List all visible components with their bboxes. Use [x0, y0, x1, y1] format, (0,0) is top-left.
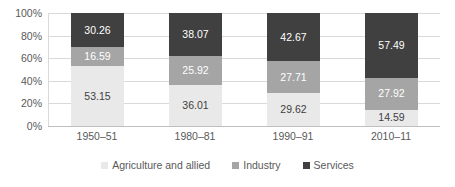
bar-segment[interactable]: 38.07: [169, 13, 222, 56]
bar-group[interactable]: 42.6727.7129.62: [267, 13, 320, 126]
gridline: [48, 126, 440, 127]
plot-area: 30.2616.5953.1538.0725.9236.0142.6727.71…: [48, 13, 440, 126]
y-tick-label: 60%: [0, 53, 42, 64]
legend-item[interactable]: Agriculture and allied: [101, 160, 210, 171]
bar-segment[interactable]: 27.71: [267, 61, 320, 92]
bar-value-label: 30.26: [84, 25, 110, 36]
legend-swatch-icon: [101, 162, 108, 169]
bar-segment[interactable]: 14.59: [365, 110, 418, 126]
bar-segment[interactable]: 25.92: [169, 56, 222, 85]
bar-group[interactable]: 30.2616.5953.15: [71, 13, 124, 126]
bar-group[interactable]: 38.0725.9236.01: [169, 13, 222, 126]
bar-value-label: 38.07: [182, 29, 208, 40]
bar-segment[interactable]: 57.49: [365, 13, 418, 78]
legend-swatch-icon: [232, 162, 239, 169]
bar-segment[interactable]: 16.59: [71, 47, 124, 66]
bar-value-label: 16.59: [84, 51, 110, 62]
bar-value-label: 25.92: [182, 65, 208, 76]
bar-segment[interactable]: 53.15: [71, 66, 124, 126]
y-tick-label: 20%: [0, 98, 42, 109]
y-tick-label: 40%: [0, 76, 42, 87]
y-tick-label: 80%: [0, 31, 42, 42]
x-tick-label: 1950–51: [52, 130, 142, 144]
x-tick-label: 1990–91: [248, 130, 338, 144]
y-tick-label: 100%: [0, 8, 42, 19]
bar-value-label: 27.92: [378, 88, 404, 99]
x-tick-label: 1980–81: [150, 130, 240, 144]
bar-value-label: 29.62: [280, 104, 306, 115]
legend-label: Services: [314, 160, 354, 171]
legend-item[interactable]: Services: [303, 160, 354, 171]
bar-value-label: 53.15: [84, 91, 110, 102]
bar-segment[interactable]: 29.62: [267, 93, 320, 126]
y-tick-label: 0%: [0, 121, 42, 132]
bar-value-label: 27.71: [280, 72, 306, 83]
x-axis: 1950–511980–811990–912010–11: [48, 130, 440, 146]
legend-label: Agriculture and allied: [112, 160, 210, 171]
legend-item[interactable]: Industry: [232, 160, 280, 171]
stacked-bar-chart: 0%20%40%60%80%100% 30.2616.5953.1538.072…: [0, 0, 455, 187]
legend-swatch-icon: [303, 162, 310, 169]
bar-value-label: 57.49: [378, 40, 404, 51]
bar-segment[interactable]: 27.92: [365, 78, 418, 110]
bar-value-label: 36.01: [182, 100, 208, 111]
legend-label: Industry: [243, 160, 280, 171]
x-tick-label: 2010–11: [346, 130, 436, 144]
bar-segment[interactable]: 36.01: [169, 85, 222, 126]
bar-value-label: 14.59: [378, 112, 404, 123]
bar-value-label: 42.67: [280, 32, 306, 43]
bar-segment[interactable]: 42.67: [267, 13, 320, 61]
bar-segment[interactable]: 30.26: [71, 13, 124, 47]
chart-legend: Agriculture and alliedIndustryServices: [0, 160, 455, 171]
bar-group[interactable]: 57.4927.9214.59: [365, 13, 418, 126]
y-axis: 0%20%40%60%80%100%: [0, 13, 44, 126]
